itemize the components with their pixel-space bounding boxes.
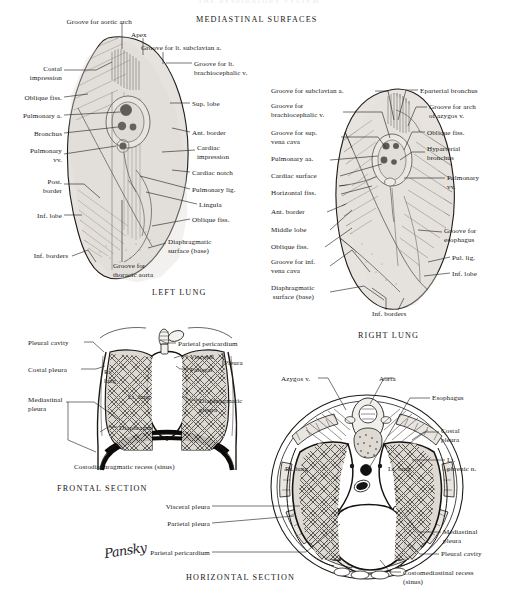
heading-mediastinal-surfaces: MEDIASTINAL SURFACES <box>196 15 317 24</box>
anatomical-plate: THE RESPIRATORY SYSTEM <box>0 0 518 613</box>
label-cardiac-surface: Cardiac surface <box>271 172 317 181</box>
label-fs-parietal: Parietal <box>190 366 212 375</box>
label-inf-borders-right: Inf. borders <box>372 310 406 319</box>
label-sup-lobe: Sup. lobe <box>192 100 220 109</box>
label-eparterial-bronchus: Eparterial bronchus <box>420 87 478 96</box>
label-groove-thoracic-aorta: Groove for thoracic aorta <box>113 262 153 279</box>
label-cardiac-notch: Cardiac notch <box>192 169 233 178</box>
label-groove-brachiocephalic-v: Groove for brachiocephalic v. <box>271 102 324 119</box>
right-lung-texture <box>334 88 458 314</box>
label-ant-border-right-lung: Ant. border <box>271 208 305 217</box>
label-pulmonary-vv: Pulmonary vv. <box>0 147 62 164</box>
label-fs-mediastinal-pleura: Mediastinal pleura <box>28 396 63 413</box>
label-inf-lobe-left: Inf. lobe <box>0 212 62 221</box>
label-groove-subclavian-a: Groove for subclavian a. <box>271 87 344 96</box>
label-ant-border-left-lung: Ant. border <box>192 129 226 138</box>
label-hs-mediastinal-pleura: Mediastinal pleura <box>443 528 478 545</box>
caption-right-lung: RIGHT LUNG <box>358 331 419 340</box>
label-groove-arch-azygos: Groove for arch of azygos v. <box>429 103 476 120</box>
label-fs-visceral: Visceral <box>190 353 214 362</box>
label-hyparterial-bronchus: Hyparterial bronchus <box>427 145 460 162</box>
label-groove-sup-vena-cava: Groove for sup. vena cava <box>271 129 317 146</box>
label-diaphragmatic-surface-right: Diaphragmatic surface (base) <box>271 284 314 301</box>
label-cardiac-impression: Cardiac impression <box>197 144 229 161</box>
label-hs-esophagus: Esophagus <box>432 394 464 403</box>
label-fs-diaphragmatic-pleura: Diaphragmatic pleura <box>199 397 242 414</box>
label-hs-parietal-pleura: Parietal pleura <box>142 520 210 529</box>
label-fs-lt-lung: Lt. lung <box>128 393 151 402</box>
label-pulmonary-vv-right: Pulmonary vv. <box>447 174 479 191</box>
label-hs-aorta: Aorta <box>379 375 396 384</box>
label-groove-lt-subclavian-a: Groove for lt. subclavian a. <box>141 44 221 53</box>
label-pulmonary-a: Pulmonary a. <box>0 112 62 121</box>
label-inf-borders-left: Inf. borders <box>0 252 68 261</box>
label-bronchus: Bronchus <box>0 130 62 139</box>
label-pul-lig: Pul. lig. <box>452 254 475 263</box>
label-fs-diaphragm: Diaphragm <box>119 424 152 433</box>
label-hs-pleural-cavity: Pleural cavity <box>441 550 482 559</box>
label-fs-rt-lung: Rt. lung <box>104 368 116 385</box>
label-oblique-fiss-lower-left: Oblique fiss. <box>192 216 230 225</box>
label-inf-lobe-right: Inf. lobe <box>452 270 477 279</box>
label-apex: Apex <box>131 31 147 40</box>
artist-signature: Pansky <box>103 540 147 561</box>
label-hs-lt-phrenic-n: Lt. phrenic n. <box>447 456 476 473</box>
label-hs-lt-lung: Lt. lung <box>388 465 411 474</box>
label-horizontal-fiss: Horizontal fiss. <box>271 189 316 198</box>
label-hs-costomediastinal-recess: Costomediastinal recess (sinus) <box>403 569 474 586</box>
label-hs-rt-lung: Rt. lung <box>285 465 308 474</box>
label-oblique-fiss-upper-left: Oblique fiss. <box>0 94 62 103</box>
hs-rt-lung-fill <box>298 442 350 562</box>
label-oblique-fiss-upper-right: Oblique fiss. <box>427 129 465 138</box>
label-post-border: Post. border <box>0 178 62 195</box>
caption-left-lung: LEFT LUNG <box>152 288 207 297</box>
label-lingula: Lingula <box>199 201 222 210</box>
running-head: THE RESPIRATORY SYSTEM <box>0 0 518 3</box>
label-fs-pleura: Pleura <box>224 359 243 368</box>
label-groove-esophagus: Groove for esophagus <box>444 227 476 244</box>
label-groove-inf-vena-cava: Groove for inf. vena cava <box>271 258 315 275</box>
label-fs-pleural-cavity: Pleural cavity <box>28 339 69 348</box>
label-costal-impression: Costal impression <box>0 65 62 82</box>
label-hs-azygos-v: Azygos v. <box>281 375 310 384</box>
label-oblique-fiss-right-lung: Oblique fiss. <box>271 243 309 252</box>
label-diaphragmatic-surface-left: Diaphragmatic surface (base) <box>168 238 211 255</box>
caption-frontal-section: FRONTAL SECTION <box>57 484 148 493</box>
label-fs-costal-pleura: Costal pleura <box>28 366 67 375</box>
caption-horizontal-section: HORIZONTAL SECTION <box>186 573 295 582</box>
label-fs-costodiaphragmatic-recess: Costodiaphragmatic recess (sinus) <box>74 463 175 472</box>
hs-lt-lung-fill <box>384 442 436 562</box>
label-hs-costal-pleura: Costal pleura <box>441 427 460 444</box>
label-fs-parietal-pericardium: Parietal pericardium <box>178 340 238 349</box>
label-middle-lobe: Middle lobe <box>271 226 307 235</box>
label-hs-visceral-pleura: Visceral pleura <box>142 503 210 512</box>
label-pulmonary-aa: Pulmonary aa. <box>271 155 313 164</box>
label-pulmonary-lig: Pulmonary lig. <box>192 186 236 195</box>
label-groove-aortic-arch: Groove for aortic arch <box>0 18 132 27</box>
label-groove-lt-brachiocephalic-v: Groove for lt. brachiocephalic v. <box>194 60 247 77</box>
